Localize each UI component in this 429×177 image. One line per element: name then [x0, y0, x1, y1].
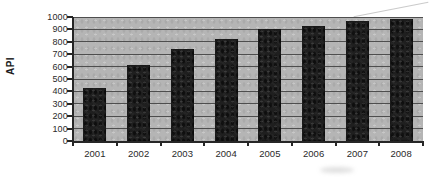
- gridline-800: [73, 41, 423, 42]
- x-label-2001: 2001: [73, 148, 117, 159]
- y-tick-label-900: 900: [28, 24, 68, 34]
- bar-2003: [171, 49, 194, 141]
- y-axis-line: [72, 17, 74, 142]
- bar-2001: [83, 88, 106, 141]
- bar-2002: [127, 65, 150, 141]
- gridline-100: [73, 128, 423, 129]
- bar-2007: [346, 21, 369, 141]
- gridline-200: [73, 116, 423, 117]
- gridline-300: [73, 103, 423, 104]
- y-tick-label-500: 500: [28, 74, 68, 84]
- y-tick-label-100: 100: [28, 124, 68, 134]
- bar-2008: [390, 19, 413, 141]
- y-tick-label-0: 0: [28, 136, 68, 146]
- bar-2004: [215, 39, 238, 141]
- scan-artifact-line: [354, 2, 429, 17]
- y-axis-title: API: [5, 49, 17, 83]
- bar-2005: [258, 29, 281, 141]
- bar-chart: API 010020030040050060070080090010002001…: [0, 0, 429, 177]
- gridline-1000: [73, 17, 423, 18]
- x-label-2004: 2004: [204, 148, 248, 159]
- gridline-900: [73, 29, 423, 30]
- x-label-2005: 2005: [248, 148, 292, 159]
- x-label-2008: 2008: [379, 148, 423, 159]
- x-label-2003: 2003: [160, 148, 204, 159]
- y-tick-label-700: 700: [28, 49, 68, 59]
- x-axis-line: [72, 141, 423, 143]
- x-label-2002: 2002: [117, 148, 161, 159]
- scan-artifact-smudge: [320, 167, 354, 173]
- y-tick-label-200: 200: [28, 111, 68, 121]
- y-tick-label-800: 800: [28, 37, 68, 47]
- gridline-700: [73, 54, 423, 55]
- y-tick-label-600: 600: [28, 62, 68, 72]
- gridline-600: [73, 66, 423, 67]
- y-tick-label-1000: 1000: [28, 12, 68, 22]
- y-tick-label-300: 300: [28, 99, 68, 109]
- y-tick-label-400: 400: [28, 86, 68, 96]
- gridline-400: [73, 91, 423, 92]
- x-label-2006: 2006: [292, 148, 336, 159]
- x-label-2007: 2007: [335, 148, 379, 159]
- bar-2006: [302, 26, 325, 141]
- gridline-500: [73, 79, 423, 80]
